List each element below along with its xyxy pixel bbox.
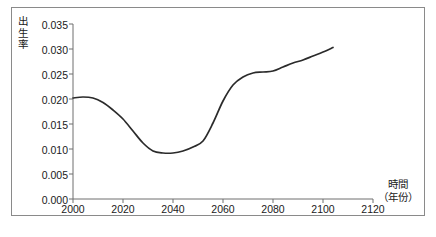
plot-area <box>0 0 436 237</box>
birth-rate-chart-figure: 出 生 率 0.035 0.030 0.025 0.020 0.015 0.01… <box>0 0 436 237</box>
y-tick-marks <box>69 24 73 199</box>
x-tick-marks <box>73 199 373 203</box>
plot-svg <box>0 0 436 237</box>
birth-rate-series-line <box>73 48 333 154</box>
